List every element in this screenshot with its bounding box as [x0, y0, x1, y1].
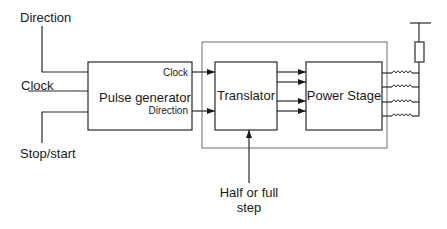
motor-coils [382, 71, 419, 116]
coil-2 [382, 85, 419, 87]
translator-label: Translator [217, 88, 276, 103]
direction-input-wire [42, 26, 88, 72]
stop-start-input-wire [42, 112, 88, 143]
input-stop-start-label: Stop/start [20, 146, 76, 161]
step-mode-label-line1: Half or full [220, 185, 279, 200]
resistor-icon [415, 42, 424, 62]
pulse-generator-label: Pulse generator [99, 90, 191, 105]
power-stage-label: Power Stage [307, 88, 381, 103]
step-mode-label-line2: step [237, 200, 262, 215]
pulse-generator-direction-out-label: Direction [149, 105, 188, 116]
input-direction-label: Direction [20, 10, 71, 25]
coil-1 [382, 71, 419, 73]
pulse-generator-clock-out-label: Clock [163, 67, 189, 78]
coil-4 [382, 114, 419, 116]
coil-3 [382, 100, 419, 102]
stepper-drive-block-diagram: Direction Clock Stop/start Pulse generat… [0, 0, 447, 229]
